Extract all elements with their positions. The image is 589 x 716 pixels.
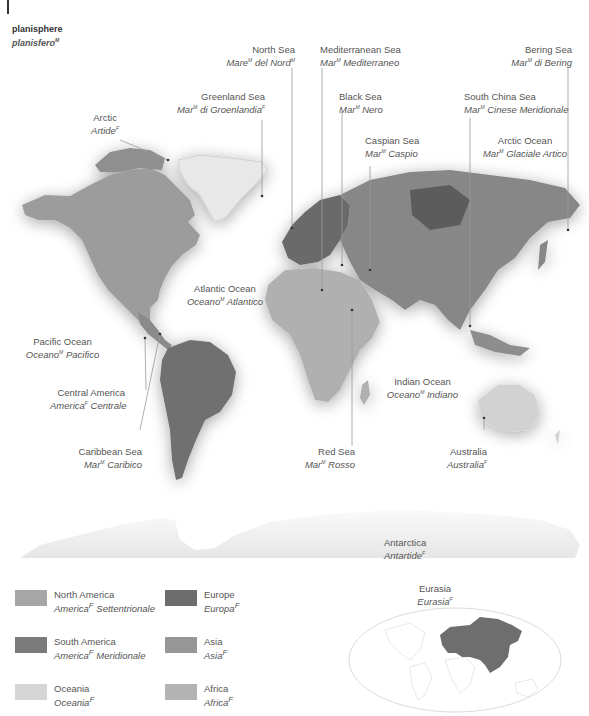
label-south-china-sea: South China Sea MarM Cinese Meridionale [464,91,569,115]
north-america [22,168,200,322]
arctic-islands [95,148,165,172]
label-pacific-ocean: Pacific Ocean OceanoM Pacifico [20,336,105,360]
label-atlantic-ocean: Atlantic Ocean OceanoM Atlantico [180,283,270,307]
africa [265,268,380,402]
label-black-sea: Black Sea MarM Nero [339,91,383,115]
world-map [0,0,589,565]
japan [538,240,548,270]
label-arctic: Arctic ArtideF [80,112,130,136]
legend-swatch [15,684,47,700]
madagascar [360,380,370,405]
se-asia-islands [470,330,530,356]
label-caribbean-sea: Caribbean Sea MarM Caribico [70,446,142,470]
label-caspian-sea: Caspian Sea MarM Caspio [365,135,419,159]
inset-title: Eurasia EurasiaF [390,583,480,607]
label-indian-ocean: Indian Ocean OceanoM Indiano [380,376,465,400]
label-central-america: Central America AmericaF Centrale [50,387,125,411]
legend-swatch [15,590,47,606]
label-arctic-ocean: Arctic Ocean MarM Glaciale Artico [480,135,570,159]
eurasia-highlight [440,617,522,673]
antarctica [20,510,580,558]
legend-swatch [165,684,197,700]
south-america [160,340,236,480]
label-north-sea: North Sea MareM del NordM [220,44,295,68]
new-zealand [555,430,560,445]
central-america [138,312,172,350]
label-bering-sea: Bering Sea MarM di Bering [500,44,572,68]
legend-swatch [15,637,47,653]
label-australia: Australia AustraliaF [440,446,487,470]
label-greenland-sea: Greenland Sea MarM di GroenlandiaF [170,91,265,115]
label-antarctica: Antarctica AntartideF [384,537,426,561]
eurasia-inset-map [340,605,570,715]
label-mediterranean-sea: Mediterranean Sea MarM Mediterraneo [320,44,401,68]
legend-swatch [165,590,197,606]
australia [478,385,540,432]
label-red-sea: Red Sea MarM Rosso [300,446,355,470]
legend-swatch [165,637,197,653]
